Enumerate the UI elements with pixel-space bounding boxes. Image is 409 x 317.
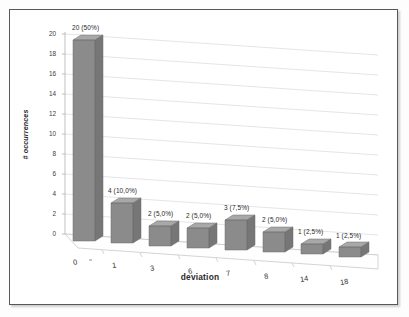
x-axis-title: deviation bbox=[140, 272, 260, 282]
y-tick-label: 14 bbox=[40, 90, 56, 97]
bar-value-label: 1 (2,5%) bbox=[336, 232, 361, 239]
y-tick-label: 20 bbox=[40, 30, 56, 37]
y-tick-label: 2 bbox=[40, 210, 56, 217]
bar-column bbox=[263, 227, 293, 252]
x-tick-label: 18 bbox=[339, 277, 349, 287]
bar-column bbox=[225, 215, 255, 250]
scan-artifact-speck bbox=[89, 259, 92, 261]
bar-chart-graphic bbox=[10, 10, 399, 306]
chart-plot-area: 20 18 16 14 12 10 8 6 4 2 0 # occurrence… bbox=[10, 10, 399, 306]
y-tick-label: 6 bbox=[40, 170, 56, 177]
bar-column bbox=[187, 223, 217, 248]
x-tick-label: 14 bbox=[299, 274, 309, 284]
y-tick-label: 12 bbox=[40, 110, 56, 117]
bar-column bbox=[149, 221, 179, 246]
bar-column bbox=[111, 198, 141, 243]
y-tick-label: 8 bbox=[40, 150, 56, 157]
bar-value-label: 2 (5,0%) bbox=[262, 216, 287, 223]
bar-value-label: 20 (50%) bbox=[72, 24, 99, 31]
y-tick-label: 18 bbox=[40, 50, 56, 57]
bar-value-label: 4 (10,0%) bbox=[108, 187, 137, 194]
bar-value-label: 1 (2,5%) bbox=[298, 228, 323, 235]
y-tick-label: 16 bbox=[40, 70, 56, 77]
bar-value-label: 3 (7,5%) bbox=[224, 204, 249, 211]
chart-frame: 20 18 16 14 12 10 8 6 4 2 0 # occurrence… bbox=[9, 9, 398, 305]
bar-column bbox=[73, 35, 103, 241]
y-tick-label: 10 bbox=[40, 130, 56, 137]
y-tick-label: 4 bbox=[40, 190, 56, 197]
y-tick-label: 0 bbox=[40, 230, 56, 237]
bar-column bbox=[301, 239, 331, 254]
screenshot-root: 20 18 16 14 12 10 8 6 4 2 0 # occurrence… bbox=[0, 0, 409, 317]
bar-value-label: 2 (5,0%) bbox=[186, 212, 211, 219]
bar-value-label: 2 (5,0%) bbox=[148, 210, 173, 217]
axis-lines bbox=[62, 32, 378, 255]
bar-column bbox=[339, 242, 369, 257]
y-axis-title: # occurrences bbox=[21, 87, 30, 183]
